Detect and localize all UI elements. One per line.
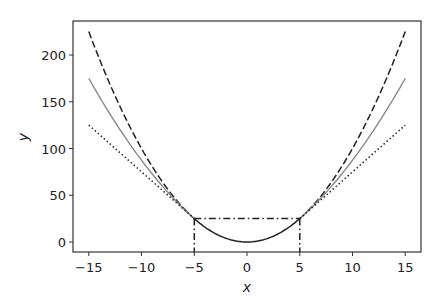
x-tick-label: 15 bbox=[397, 260, 414, 275]
y-axis-label: y bbox=[15, 132, 31, 142]
y-axis-ticks: 050100150200 bbox=[41, 48, 73, 250]
series-tangent-line-right bbox=[300, 125, 406, 219]
y-tick-label: 100 bbox=[41, 142, 66, 157]
x-tick-label: −15 bbox=[75, 260, 102, 275]
y-tick-label: 150 bbox=[41, 95, 66, 110]
plot-lines bbox=[89, 32, 406, 253]
x-tick-label: 5 bbox=[296, 260, 304, 275]
series-average-of-quadratic-and-tangent-right bbox=[300, 78, 406, 218]
x-axis-ticks: −15−10−5051015 bbox=[75, 252, 413, 275]
series-quadratic-x-2-right bbox=[300, 32, 406, 219]
x-tick-label: 0 bbox=[243, 260, 251, 275]
x-tick-label: 10 bbox=[344, 260, 361, 275]
chart: −15−10−5051015 050100150200 x y bbox=[0, 0, 446, 305]
x-tick-label: −5 bbox=[185, 260, 204, 275]
y-tick-label: 0 bbox=[58, 235, 66, 250]
series-central-parabola bbox=[194, 219, 299, 242]
series-quadratic-x-2-left bbox=[89, 32, 195, 219]
y-tick-label: 50 bbox=[49, 188, 66, 203]
series-tangent-line-left bbox=[89, 125, 195, 219]
series-average-of-quadratic-and-tangent-left bbox=[89, 78, 195, 218]
x-axis-label: x bbox=[242, 279, 252, 295]
y-tick-label: 200 bbox=[41, 48, 66, 63]
x-tick-label: −10 bbox=[128, 260, 155, 275]
